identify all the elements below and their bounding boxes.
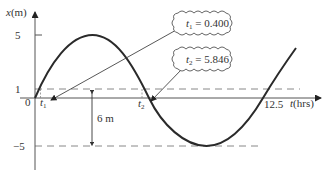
callout2-text: t2 = 5.846 — [186, 53, 230, 67]
x-tick-label-12-5: 12.5 — [264, 98, 284, 110]
callout2-pointer — [151, 69, 182, 101]
y-axis-label: x(m) — [5, 6, 27, 19]
dimension-label: 6 m — [97, 112, 114, 124]
t2-label: t2 — [138, 97, 145, 111]
y-tick-label-neg5: −5 — [13, 140, 25, 152]
sinusoid-chart: 6 m t1 = 0.400 t2 = 5.846 x(m) t(hrs) 5 … — [0, 0, 331, 180]
callout1-text: t1 = 0.400 — [186, 17, 230, 31]
x-axis-label: t(hrs) — [290, 97, 314, 110]
y-tick-label-1: 1 — [15, 83, 21, 95]
y-tick-label-5: 5 — [15, 29, 21, 41]
y-tick-label-0: 0 — [25, 96, 31, 108]
sinusoid-curve — [35, 35, 296, 146]
